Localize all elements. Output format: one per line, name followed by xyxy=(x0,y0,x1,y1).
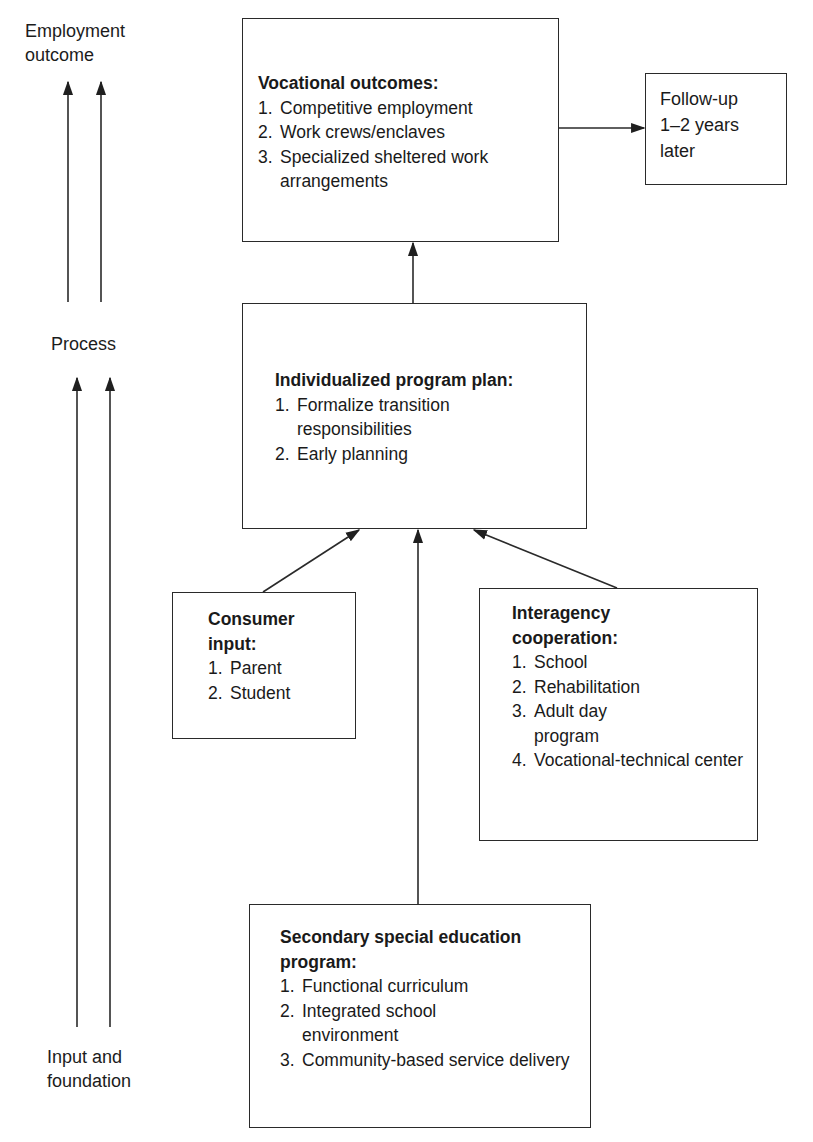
list-item: 3.Community-based service delivery xyxy=(280,1048,582,1073)
followup-line: 1–2 years xyxy=(660,112,739,138)
box-title-line: input: xyxy=(208,632,348,657)
list-item: 3.Specialized sheltered work arrangement… xyxy=(258,145,490,194)
list-item: 1.School xyxy=(512,650,752,675)
list-item: 3.Adult day program xyxy=(512,699,654,748)
item-number: 1. xyxy=(258,96,280,121)
box-vocational-outcomes: Vocational outcomes: 1.Competitive emplo… xyxy=(242,18,559,242)
item-number: 3. xyxy=(512,699,534,724)
list-item: 1.Functional curriculum xyxy=(280,974,585,999)
item-text: Functional curriculum xyxy=(302,976,468,996)
item-text: Rehabilitation xyxy=(534,677,640,697)
box-title-line: Secondary special education xyxy=(280,925,585,950)
label-input-foundation: Input and foundation xyxy=(47,1045,131,1093)
item-number: 1. xyxy=(512,650,534,675)
label-line: Input and xyxy=(47,1045,131,1069)
box-individualized-program-plan: Individualized program plan: 1.Formalize… xyxy=(242,303,587,529)
item-text: Competitive employment xyxy=(280,98,473,118)
box-consumer-input: Consumer input: 1.Parent 2.Student xyxy=(172,592,356,739)
list-item: 2.Integrated school environment xyxy=(280,999,502,1048)
item-text: School xyxy=(534,652,588,672)
label-employment-outcome: Employment outcome xyxy=(25,19,125,67)
item-text: Formalize transition responsibilities xyxy=(297,395,450,440)
item-number: 2. xyxy=(280,999,302,1024)
item-number: 1. xyxy=(280,974,302,999)
list-item: 2.Work crews/enclaves xyxy=(258,120,553,145)
label-line: outcome xyxy=(25,43,125,67)
item-text: Student xyxy=(230,683,290,703)
box-title: Individualized program plan: xyxy=(275,368,575,393)
list-item: 2.Early planning xyxy=(275,442,575,467)
list-item: 1.Parent xyxy=(208,656,348,681)
box-follow-up: Follow-up 1–2 years later xyxy=(645,73,787,185)
box-title-line: cooperation: xyxy=(512,626,752,651)
item-number: 2. xyxy=(258,120,280,145)
item-text: Integrated school environment xyxy=(302,1001,436,1046)
label-line: Employment xyxy=(25,19,125,43)
list-item: 2.Student xyxy=(208,681,348,706)
item-number: 3. xyxy=(258,145,280,170)
list-item: 2.Rehabilitation xyxy=(512,675,752,700)
label-process: Process xyxy=(51,332,116,356)
arrow-consumer-to-ipp xyxy=(263,530,359,592)
item-number: 2. xyxy=(275,442,297,467)
item-number: 3. xyxy=(280,1048,302,1073)
label-line: foundation xyxy=(47,1069,131,1093)
item-text: Parent xyxy=(230,658,282,678)
item-text: Work crews/enclaves xyxy=(280,122,445,142)
item-text: Early planning xyxy=(297,444,408,464)
item-text: Community-based service delivery xyxy=(302,1050,569,1070)
list-item: 1.Formalize transition responsibilities xyxy=(275,393,512,442)
item-text: Adult day program xyxy=(534,701,607,746)
box-title: Vocational outcomes: xyxy=(258,71,553,96)
item-number: 1. xyxy=(208,656,230,681)
item-text: Specialized sheltered work arrangements xyxy=(280,147,488,192)
list-item: 4.Vocational-technical center xyxy=(512,748,749,773)
box-title-line: Interagency xyxy=(512,601,752,626)
box-title-line: Consumer xyxy=(208,607,348,632)
item-number: 1. xyxy=(275,393,297,418)
list-item: 1.Competitive employment xyxy=(258,96,553,121)
item-number: 4. xyxy=(512,748,534,773)
followup-line: Follow-up xyxy=(660,86,739,112)
item-text: Vocational-technical center xyxy=(534,750,743,770)
box-title-line: program: xyxy=(280,950,585,975)
box-secondary-special-education: Secondary special education program: 1.F… xyxy=(249,904,591,1128)
followup-line: later xyxy=(660,138,739,164)
item-number: 2. xyxy=(208,681,230,706)
box-interagency-cooperation: Interagency cooperation: 1.School 2.Reha… xyxy=(479,588,758,841)
arrow-interagency-to-ipp xyxy=(474,530,617,588)
item-number: 2. xyxy=(512,675,534,700)
